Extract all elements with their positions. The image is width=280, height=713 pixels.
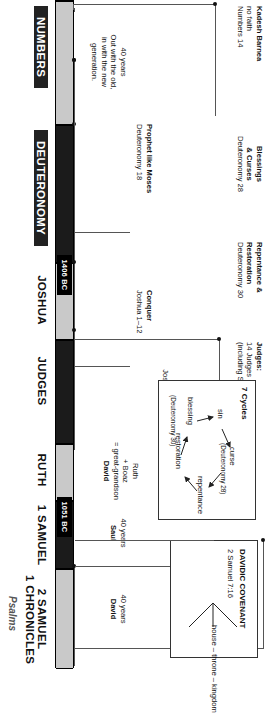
book-label-2samuel-line1: 2 SAMUEL: [36, 589, 48, 650]
prophet-ref: Deuteronomy 18: [135, 124, 145, 193]
book-label-judges: JUDGES: [36, 345, 48, 417]
bar-segment-deuteronomy: [56, 125, 73, 263]
leader-line-settle: [74, 330, 75, 450]
conquer-title: Conquer: [144, 290, 154, 334]
saul-years: 40 years: [118, 496, 128, 570]
leader-dot-settle: [72, 328, 76, 332]
annotation-kadesh-barnea: Kadesh Barnea no faith Numbers 14: [235, 6, 264, 61]
blessings-title2: & Curses: [245, 118, 255, 210]
book-label-numbers: NUMBERS: [34, 6, 48, 88]
book-label-1samuel: 1 SAMUEL: [36, 498, 48, 572]
repentance-title1: Repentance &: [254, 242, 264, 298]
david-years: 40 years: [118, 572, 128, 646]
annotation-40-years-wilderness: 40 years Out with the old, in with the n…: [89, 14, 128, 110]
cycle-node-curse-ref: (Deuteronomy 28): [220, 443, 227, 495]
book-label-joshua: JOSHUA: [36, 265, 48, 335]
book-label-1chronicles: 1 CHRONICLES: [24, 575, 36, 663]
annotation-repentance-restoration: Repentance & Restoration Deuteronomy 30: [235, 242, 264, 298]
cycle-node-restoration-ref: (Deuteronomy 30): [170, 395, 177, 447]
bar-segment-numbers: [56, 1, 73, 125]
annotation-blessings-curses: Blessings & Curses Deuteronomy 28: [235, 118, 264, 210]
leader-vline-prophet: [75, 232, 130, 233]
leader-dot-repentance: [72, 58, 76, 62]
leader-vline-kadesh: [74, 4, 216, 5]
kadesh-line1: no faith: [245, 6, 255, 61]
prophet-title: Prophet like Moses: [144, 124, 154, 193]
saul-name: Saul: [109, 496, 119, 570]
wilderness-line3: in with the new: [99, 14, 109, 110]
book-label-ruth: RUTH: [36, 443, 48, 497]
leader-dot-kadesh: [213, 2, 217, 6]
wilderness-line2: Out with the old,: [109, 14, 119, 110]
wilderness-line4: generation.: [89, 14, 99, 110]
seven-cycles-box: 7 Cycles sin curse (Deuteronomy 28) repe…: [158, 380, 256, 520]
blessings-ref: Deuteronomy 28: [235, 118, 245, 210]
annotation-david: 40 years David: [109, 572, 128, 646]
book-label-deuteronomy: DEUTERONOMY: [34, 130, 48, 246]
leader-vline-judges: [75, 339, 220, 340]
leader-vline-conquer: [75, 366, 130, 367]
cycle-node-sin: sin: [216, 409, 225, 419]
bar-segment-judges: [56, 340, 73, 444]
date-marker-1051bc: 1051 BC: [57, 497, 72, 537]
wilderness-line1: 40 years: [118, 14, 128, 110]
annotation-conquer: Conquer Joshua 1–12: [135, 290, 154, 334]
covenant-branches: house – throne – kingdom: [210, 625, 219, 713]
covenant-connector-vline: [75, 540, 214, 541]
blessings-title1: Blessings: [254, 118, 264, 210]
repentance-title2: Restoration: [245, 242, 255, 298]
david-name: David: [109, 572, 119, 646]
ruth-line1: Ruth: [130, 424, 140, 518]
davidic-covenant-box: DAVIDIC COVENANT 2 Samuel 7:16 house – t…: [170, 540, 258, 658]
kadesh-line2: Numbers 14: [235, 6, 245, 61]
bar-segment-ruth: [56, 444, 73, 501]
cycle-node-curse: curse: [228, 447, 237, 466]
annotation-prophet-like-moses: Prophet like Moses Deuteronomy 18: [135, 124, 154, 193]
kadesh-title: Kadesh Barnea: [254, 6, 264, 61]
cycle-node-repentance: repentance: [196, 476, 205, 514]
leader-dot-conquer: [72, 260, 76, 264]
leader-dot-judges: [217, 337, 221, 341]
cycle-node-blessing: blessing: [186, 397, 195, 425]
leader-line-kadesh-top: [215, 4, 216, 116]
leader-line-pivot-top: [263, 540, 264, 648]
repentance-ref: Deuteronomy 30: [235, 242, 245, 298]
book-label-2samuel: 2 SAMUEL 1 CHRONICLES: [24, 575, 48, 663]
psalms-label: Psalms: [7, 596, 18, 631]
leader-line-40-wilderness: [74, 8, 75, 12]
conquer-ref: Joshua 1–12: [135, 290, 145, 334]
annotation-saul: 40 years Saul: [109, 496, 128, 570]
bar-segment-2samuel: [56, 569, 73, 669]
timeline-bar: [55, 0, 74, 668]
date-marker-1406bc: 1406 BC: [57, 255, 72, 295]
leader-dot-pivot: [261, 538, 265, 542]
